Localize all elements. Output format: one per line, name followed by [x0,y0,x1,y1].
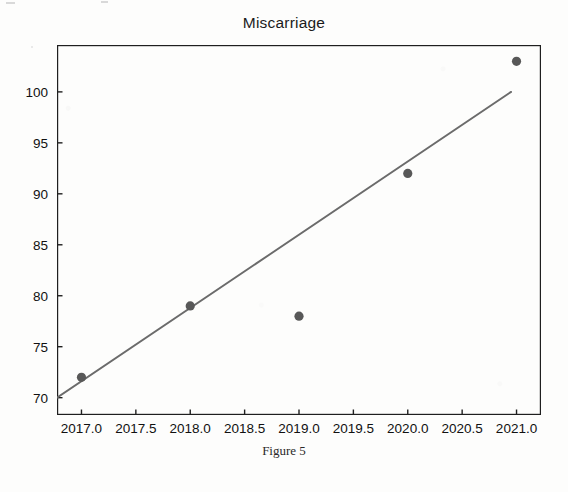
chart-title: Miscarriage [0,14,568,32]
data-point [77,373,86,382]
x-tick-label: 2019.0 [278,421,319,436]
scan-speck [6,2,15,4]
scatter-plot-svg [57,45,541,415]
x-tick-label: 2019.5 [333,421,374,436]
data-point [403,169,412,178]
y-tick-label: 90 [33,186,48,201]
x-tick-label: 2020.5 [441,421,482,436]
x-tick-label: 2018.0 [170,421,211,436]
data-point [294,312,303,321]
data-point [186,301,195,310]
x-tick-label: 2017.0 [61,421,102,436]
y-tick-label: 85 [33,237,48,252]
x-tick-label: 2021.0 [496,421,537,436]
figure-page: Miscarriage 707580859095100 2017.02017.5… [0,0,568,492]
figure-caption: Figure 5 [0,443,568,459]
x-tick-label: 2018.5 [224,421,265,436]
y-tick-label: 95 [33,135,48,150]
y-tick-label: 100 [25,84,48,99]
x-tick-label: 2020.0 [387,421,428,436]
x-tick-label: 2017.5 [115,421,156,436]
y-tick-label: 70 [33,390,48,405]
plot-frame [58,46,541,415]
y-tick-label: 75 [33,339,48,354]
y-axis-tick-labels: 707580859095100 [0,45,48,415]
plot-area [57,45,541,415]
data-point-markers [77,57,521,382]
scan-speck [101,1,108,3]
trend-line [57,92,511,398]
data-point [512,57,521,66]
y-tick-label: 80 [33,288,48,303]
x-axis-tick-labels: 2017.02017.52018.02018.52019.02019.52020… [0,421,568,441]
